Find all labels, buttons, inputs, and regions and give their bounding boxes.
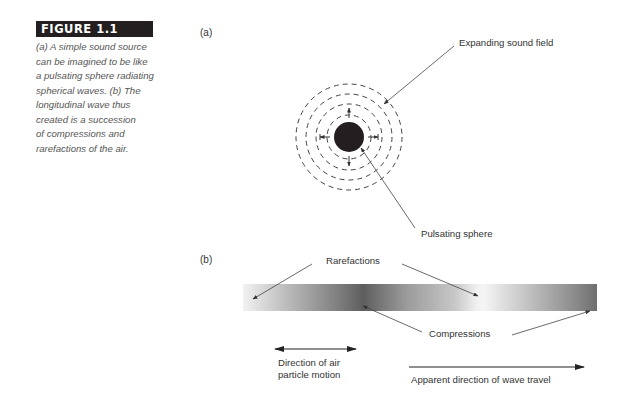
wave-travel-label: Apparent direction of wave travel [411, 374, 551, 385]
wave-compression-bar [243, 284, 597, 311]
particle-motion-line: Direction of air [278, 357, 340, 369]
panel-b-label: (b) [200, 254, 212, 265]
particle-motion-label: Direction of air particle motion [278, 357, 340, 381]
compression-leader-right [512, 311, 590, 335]
pulsating-sphere-label: Pulsating sphere [421, 228, 492, 239]
sound-wave-diagram [0, 0, 624, 397]
particle-motion-line: particle motion [278, 369, 340, 381]
rarefactions-label: Rarefactions [326, 255, 380, 266]
pulsating-sphere [334, 122, 364, 152]
expanding-field-label: Expanding sound field [459, 37, 553, 48]
panel-a-label: (a) [200, 27, 212, 38]
expanding-field-leader [384, 46, 454, 104]
compressions-label: Compressions [429, 328, 490, 339]
pulsating-sphere-leader [361, 148, 415, 228]
